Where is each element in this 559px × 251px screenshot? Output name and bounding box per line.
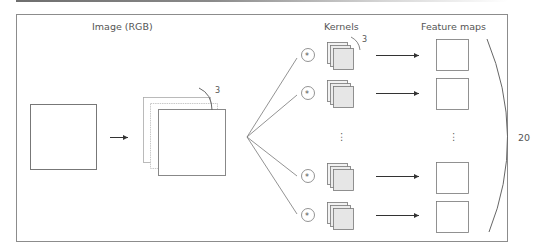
kernel-depth: 3 [362,35,367,44]
cnn-diagram: Image (RGB) Kernels Feature maps 3 * 3 * [0,0,559,251]
image-label: Image (RGB) [92,21,153,32]
convolution-operator: * [305,173,309,182]
feature-map [437,202,469,233]
rgb-channel-stack [144,98,226,176]
input-image [31,105,97,170]
kernel-ellipsis: ⋮ [337,131,347,142]
kernels-label: Kernels [324,21,359,32]
feature-map [437,163,469,194]
feature-map-count: 20 [518,132,530,143]
feature-map [437,40,469,71]
feature-maps-label: Feature maps [421,21,486,32]
kernel-depth-arc [351,37,360,50]
convolution-operator: * [305,90,309,99]
kernel-row: * [302,163,469,194]
kernel-row: * [302,79,469,110]
convolution-operator: * [305,52,309,61]
channel-count: 3 [215,86,220,95]
feature-map-ellipsis: ⋮ [449,131,459,142]
fan-lines [247,58,297,214]
curved-brace-icon [487,39,508,232]
kernel-row: * [302,202,469,233]
kernel-row: * 3 [302,35,469,71]
convolution-operator: * [305,212,309,221]
feature-map [437,79,469,110]
